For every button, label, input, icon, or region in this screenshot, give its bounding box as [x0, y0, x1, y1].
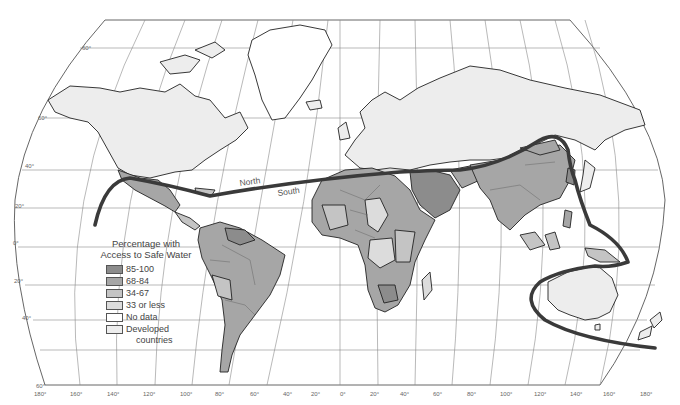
- svg-text:20°: 20°: [15, 203, 25, 209]
- legend-item-developed: Developed countries: [106, 324, 226, 346]
- north-label: North: [239, 175, 261, 188]
- svg-text:160°: 160°: [70, 391, 83, 397]
- legend-swatch: [106, 265, 123, 274]
- legend-item-85-100: 85-100: [106, 264, 226, 276]
- svg-text:40°: 40°: [400, 391, 410, 397]
- legend-item-no-data: No data: [106, 312, 226, 324]
- svg-text:140°: 140°: [107, 391, 120, 397]
- svg-text:120°: 120°: [534, 391, 547, 397]
- svg-text:60°: 60°: [38, 115, 48, 121]
- legend-swatch: [106, 277, 123, 286]
- legend-swatch: [106, 313, 123, 322]
- legend-swatch: [106, 325, 123, 334]
- svg-text:180°: 180°: [34, 391, 47, 397]
- svg-text:40°: 40°: [283, 391, 293, 397]
- svg-text:60°: 60°: [82, 45, 92, 51]
- map-legend: Percentage with Access to Safe Water 85-…: [86, 238, 226, 346]
- svg-text:20°: 20°: [14, 278, 24, 284]
- svg-text:60°: 60°: [433, 391, 443, 397]
- svg-text:40°: 40°: [25, 163, 35, 169]
- svg-text:40°: 40°: [22, 315, 32, 321]
- svg-text:0°: 0°: [13, 240, 19, 246]
- svg-text:60°: 60°: [250, 391, 260, 397]
- north-america: [48, 84, 248, 178]
- svg-text:120°: 120°: [143, 391, 156, 397]
- svg-text:60°: 60°: [36, 383, 46, 389]
- svg-text:140°: 140°: [570, 391, 583, 397]
- svg-text:180°: 180°: [640, 391, 653, 397]
- legend-item-33-or-less: 33 or less: [106, 300, 226, 312]
- legend-title: Percentage with Access to Safe Water: [86, 238, 206, 260]
- svg-text:100°: 100°: [180, 391, 193, 397]
- svg-text:160°: 160°: [603, 391, 616, 397]
- legend-item-34-67: 34-67: [106, 288, 226, 300]
- svg-text:80°: 80°: [215, 391, 225, 397]
- legend-swatch: [106, 289, 123, 298]
- legend-swatch: [106, 301, 123, 310]
- longitude-labels: 180° 160° 140° 120° 100° 80° 60° 40° 20°…: [34, 391, 653, 397]
- eurasia-developed: [345, 66, 645, 170]
- svg-text:20°: 20°: [370, 391, 380, 397]
- legend-item-68-84: 68-84: [106, 276, 226, 288]
- svg-text:0°: 0°: [340, 391, 346, 397]
- svg-text:100°: 100°: [500, 391, 513, 397]
- svg-text:20°: 20°: [311, 391, 321, 397]
- south-label: South: [277, 185, 301, 198]
- svg-text:80°: 80°: [467, 391, 477, 397]
